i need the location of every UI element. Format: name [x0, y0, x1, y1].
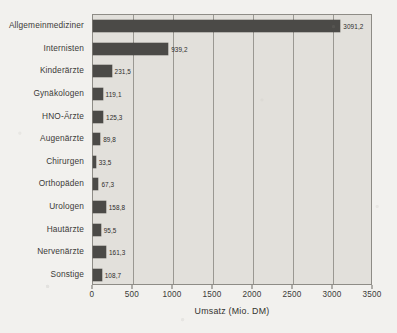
bar	[93, 65, 112, 77]
category-label: Orthopäden	[0, 178, 84, 188]
bar	[93, 43, 168, 55]
x-tick-label: 3500	[362, 290, 381, 299]
category-label: Internisten	[0, 43, 84, 53]
bar	[93, 269, 102, 281]
x-tick	[92, 285, 93, 289]
bar-value-label: 939,2	[171, 45, 188, 52]
bar-value-label: 67,3	[101, 181, 114, 188]
category-label: Sonstige	[0, 269, 84, 279]
gridline	[333, 15, 334, 284]
gridline	[133, 15, 134, 284]
gridline	[213, 15, 214, 284]
x-tick-label: 2000	[242, 290, 261, 299]
x-tick-label: 1000	[162, 290, 181, 299]
category-label: Urologen	[0, 201, 84, 211]
bar	[93, 88, 103, 100]
bar-chart-figure: AllgemeinmedizinerInternistenKinderärzte…	[0, 0, 397, 333]
category-label: Nervenärzte	[0, 246, 84, 256]
x-tick-label: 2500	[282, 290, 301, 299]
bar	[93, 178, 98, 190]
plot-area: 3091,2939,2231,5119,1125,389,833,567,315…	[92, 14, 372, 285]
bar	[93, 156, 96, 168]
bar-value-label: 3091,2	[343, 23, 363, 30]
x-axis: 0500100015002000250030003500	[92, 285, 372, 307]
bar-value-label: 119,1	[106, 91, 122, 98]
x-tick	[332, 285, 333, 289]
category-label: Gynäkologen	[0, 88, 84, 98]
gridline	[253, 15, 254, 284]
x-tick	[212, 285, 213, 289]
bar-value-label: 33,5	[99, 158, 112, 165]
bar	[93, 133, 100, 145]
gridline	[293, 15, 294, 284]
category-label: HNO-Ärzte	[0, 111, 84, 121]
bar	[93, 201, 106, 213]
x-tick	[132, 285, 133, 289]
gridline	[173, 15, 174, 284]
category-label: Allgemeinmediziner	[0, 20, 84, 30]
x-axis-title: Umsatz (Mio. DM)	[92, 306, 372, 316]
bar	[93, 111, 103, 123]
bar	[93, 20, 340, 32]
bar-value-label: 161,3	[109, 249, 126, 256]
bar-value-label: 108,7	[105, 271, 122, 278]
bar	[93, 224, 101, 236]
bar-value-label: 89,8	[103, 136, 116, 143]
x-tick-label: 500	[125, 290, 139, 299]
bar-value-label: 158,8	[109, 203, 126, 210]
bar-value-label: 231,5	[115, 68, 132, 75]
category-axis: AllgemeinmedizinerInternistenKinderärzte…	[0, 14, 88, 285]
category-label: Augenärzte	[0, 133, 84, 143]
x-tick	[292, 285, 293, 289]
category-label: Kinderärzte	[0, 65, 84, 75]
x-tick-label: 3000	[322, 290, 341, 299]
x-tick	[172, 285, 173, 289]
x-tick-label: 1500	[202, 290, 221, 299]
bar	[93, 246, 106, 258]
bar-value-label: 125,3	[106, 113, 123, 120]
x-tick	[252, 285, 253, 289]
category-label: Chirurgen	[0, 156, 84, 166]
category-label: Hautärzte	[0, 224, 84, 234]
x-tick-label: 0	[90, 290, 95, 299]
bar-value-label: 95,5	[104, 226, 117, 233]
x-tick	[372, 285, 373, 289]
